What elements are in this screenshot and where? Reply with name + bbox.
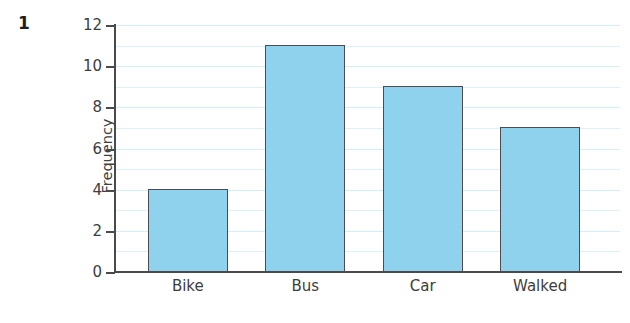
y-axis-tick-label: 12	[30, 18, 102, 33]
y-axis-tick-label: 4	[30, 182, 102, 197]
bar-chart-figure: 1 Frequency 024681012 BikeBusCarWalked	[0, 0, 630, 323]
x-axis-category-label: Bus	[247, 279, 364, 294]
y-axis-tick	[106, 231, 115, 233]
gridline	[115, 107, 620, 108]
y-axis-tick	[106, 25, 115, 27]
x-axis-category-label: Walked	[481, 279, 598, 294]
y-axis-tick	[106, 149, 115, 151]
y-axis-tick	[106, 107, 115, 109]
gridline	[115, 46, 620, 47]
y-axis-tick	[106, 190, 115, 192]
gridline	[115, 87, 620, 88]
y-axis-tick-label: 0	[30, 265, 102, 280]
bar	[148, 189, 228, 272]
y-axis-tick-label: 6	[30, 141, 102, 156]
bar	[265, 45, 345, 272]
y-axis-tick	[106, 272, 115, 274]
y-axis-tick-labels: 024681012	[26, 0, 102, 323]
plot-area	[115, 25, 620, 272]
gridline	[115, 25, 620, 26]
x-axis-category-label: Car	[364, 279, 481, 294]
bar	[383, 86, 463, 272]
x-axis-line	[114, 271, 622, 273]
y-axis-tick-label: 2	[30, 223, 102, 238]
y-axis-tick-label: 8	[30, 100, 102, 115]
bar	[500, 127, 580, 272]
y-axis-tick-label: 10	[30, 59, 102, 74]
x-axis-category-label: Bike	[129, 279, 246, 294]
gridline	[115, 66, 620, 67]
y-axis-tick	[106, 66, 115, 68]
